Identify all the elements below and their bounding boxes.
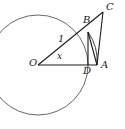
segment-oc xyxy=(38,12,103,65)
point-label-D: D xyxy=(83,66,91,76)
angle-label-x: x xyxy=(57,52,62,61)
point-label-A: A xyxy=(101,60,108,70)
radius-length-label: 1 xyxy=(58,34,64,44)
segment-ca xyxy=(97,12,103,65)
point-label-C: C xyxy=(106,2,114,12)
point-label-O: O xyxy=(29,58,37,68)
point-label-B: B xyxy=(83,15,90,25)
geometry-figure: O A B C D 1 x xyxy=(0,0,125,129)
